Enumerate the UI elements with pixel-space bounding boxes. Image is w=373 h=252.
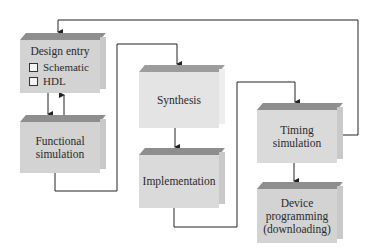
node-label-line: simulation (36, 148, 85, 161)
option-label: HDL (43, 75, 66, 88)
node-label-line: (downloading) (263, 223, 331, 236)
box-side-face (100, 119, 106, 169)
box-top-face (20, 33, 106, 40)
box-front-face: Functional simulation (20, 122, 100, 173)
box-side-face (337, 107, 343, 159)
option-schematic: Schematic (29, 61, 89, 74)
option-label: Schematic (43, 61, 89, 74)
node-label-line: Timing (280, 124, 313, 137)
node-device-programming: Device programming (downloading) (257, 182, 343, 243)
box-top-face (257, 182, 343, 189)
node-synthesis: Synthesis (139, 65, 225, 128)
box-front-face: Synthesis (139, 72, 219, 128)
node-label-line: programming (266, 210, 329, 223)
checkbox-icon (29, 63, 38, 72)
node-timing-simulation: Timing simulation (257, 103, 343, 163)
node-label-line: Device (281, 197, 314, 210)
box-side-face (337, 186, 343, 239)
box-top-face (20, 115, 106, 122)
box-top-face (257, 103, 343, 110)
node-label-line: simulation (273, 137, 322, 150)
box-side-face (100, 37, 106, 89)
node-functional-simulation: Functional simulation (20, 115, 106, 173)
box-front-face: Device programming (downloading) (257, 189, 337, 243)
node-label: Design entry (30, 45, 89, 58)
node-label: Implementation (143, 175, 216, 188)
box-front-face: Implementation (139, 155, 219, 208)
option-hdl: HDL (29, 75, 66, 88)
box-top-face (139, 65, 225, 72)
node-implementation: Implementation (139, 148, 225, 208)
box-top-face (139, 148, 225, 155)
node-design-entry: Design entry Schematic HDL (20, 33, 106, 93)
checkbox-icon (29, 77, 38, 86)
box-front-face: Design entry Schematic HDL (20, 40, 100, 93)
box-front-face: Timing simulation (257, 110, 337, 163)
node-label: Synthesis (157, 94, 201, 107)
node-label-line: Functional (35, 135, 84, 148)
box-side-face (219, 152, 225, 204)
box-side-face (219, 69, 225, 124)
